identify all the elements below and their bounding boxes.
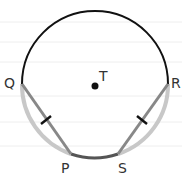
label-T: T — [98, 68, 108, 84]
label-S: S — [118, 160, 127, 176]
arc-PS — [71, 154, 118, 158]
label-R: R — [171, 75, 181, 91]
circle-diagram: T Q R P S — [0, 0, 182, 178]
label-P: P — [61, 160, 69, 176]
center-point — [92, 83, 99, 90]
label-Q: Q — [4, 75, 15, 91]
